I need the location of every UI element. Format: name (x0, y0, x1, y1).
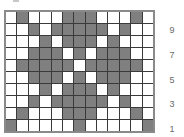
empty-cell (52, 36, 62, 47)
empty-cell (143, 48, 153, 59)
filled-cell (29, 60, 39, 71)
empty-cell (97, 36, 107, 47)
filled-cell (74, 36, 84, 47)
empty-cell (143, 36, 153, 47)
empty-cell (120, 36, 130, 47)
empty-cell (74, 60, 84, 71)
filled-cell (74, 24, 84, 35)
empty-cell (131, 72, 141, 83)
filled-cell (120, 48, 130, 59)
filled-cell (108, 60, 118, 71)
empty-cell (52, 108, 62, 119)
filled-cell (143, 120, 153, 131)
filled-cell (97, 24, 107, 35)
empty-cell (29, 36, 39, 47)
empty-cell (40, 108, 50, 119)
filled-cell (74, 84, 84, 95)
empty-cell (108, 24, 118, 35)
filled-cell (74, 48, 84, 59)
empty-cell (17, 48, 27, 59)
empty-cell (143, 24, 153, 35)
empty-cell (52, 120, 62, 131)
empty-cell (6, 60, 16, 71)
filled-cell (131, 60, 141, 71)
filled-cell (86, 108, 96, 119)
empty-cell (52, 84, 62, 95)
empty-cell (143, 108, 153, 119)
filled-cell (17, 108, 27, 119)
row-number-labels: 97531 (166, 10, 184, 133)
row-label: 9 (166, 25, 178, 35)
top-mark (13, 0, 19, 2)
empty-cell (97, 108, 107, 119)
pattern-chart-frame (4, 10, 155, 133)
filled-cell (63, 36, 73, 47)
filled-cell (97, 72, 107, 83)
filled-cell (120, 96, 130, 107)
filled-cell (40, 84, 50, 95)
empty-cell (120, 84, 130, 95)
empty-cell (52, 12, 62, 23)
filled-cell (131, 12, 141, 23)
empty-cell (86, 120, 96, 131)
empty-cell (6, 84, 16, 95)
filled-cell (17, 60, 27, 71)
filled-cell (97, 96, 107, 107)
empty-cell (63, 120, 73, 131)
empty-cell (108, 108, 118, 119)
empty-cell (6, 48, 16, 59)
filled-cell (74, 96, 84, 107)
empty-cell (143, 72, 153, 83)
empty-cell (97, 12, 107, 23)
filled-cell (86, 36, 96, 47)
filled-cell (40, 48, 50, 59)
empty-cell (131, 36, 141, 47)
empty-cell (97, 120, 107, 131)
empty-cell (143, 60, 153, 71)
pattern-grid (6, 12, 153, 131)
empty-cell (108, 120, 118, 131)
empty-cell (143, 12, 153, 23)
filled-cell (40, 60, 50, 71)
filled-cell (86, 24, 96, 35)
empty-cell (17, 120, 27, 131)
row-label: 7 (166, 50, 178, 60)
filled-cell (63, 96, 73, 107)
empty-cell (17, 36, 27, 47)
empty-cell (17, 72, 27, 83)
filled-cell (86, 60, 96, 71)
empty-cell (108, 96, 118, 107)
filled-cell (29, 72, 39, 83)
empty-cell (6, 108, 16, 119)
filled-cell (63, 84, 73, 95)
empty-cell (86, 48, 96, 59)
empty-cell (40, 96, 50, 107)
empty-cell (63, 72, 73, 83)
filled-cell (86, 96, 96, 107)
row-label: 1 (166, 124, 178, 134)
filled-cell (63, 12, 73, 23)
filled-cell (6, 120, 16, 131)
filled-cell (29, 96, 39, 107)
empty-cell (120, 108, 130, 119)
empty-cell (120, 12, 130, 23)
empty-cell (120, 120, 130, 131)
empty-cell (6, 36, 16, 47)
filled-cell (97, 60, 107, 71)
filled-cell (63, 24, 73, 35)
empty-cell (131, 120, 141, 131)
filled-cell (74, 120, 84, 131)
empty-cell (131, 96, 141, 107)
empty-cell (143, 84, 153, 95)
filled-cell (52, 24, 62, 35)
filled-cell (17, 12, 27, 23)
empty-cell (131, 48, 141, 59)
filled-cell (52, 96, 62, 107)
empty-cell (29, 108, 39, 119)
filled-cell (97, 48, 107, 59)
filled-cell (131, 108, 141, 119)
filled-cell (52, 72, 62, 83)
empty-cell (17, 24, 27, 35)
empty-cell (131, 24, 141, 35)
filled-cell (120, 24, 130, 35)
